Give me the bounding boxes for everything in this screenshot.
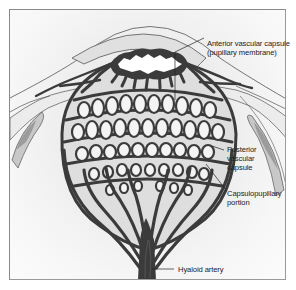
label-posterior-vascular-capsule: Posterior vascular capsule <box>227 145 257 172</box>
label-hyaloid-artery: Hyaloid artery <box>178 265 223 274</box>
label-anterior-vascular-capsule: Anterior vascular capsule (pupillary mem… <box>207 39 290 57</box>
label-capsulopupillary-portion: Capsulopupillary portion <box>227 189 282 207</box>
